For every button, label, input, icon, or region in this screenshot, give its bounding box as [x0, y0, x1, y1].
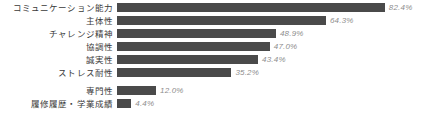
bar-row: 専門性12.0%	[0, 84, 422, 97]
bar	[117, 86, 156, 95]
category-label: ストレス耐性	[0, 68, 113, 78]
value-label: 47.0%	[274, 42, 298, 51]
value-label: 64.3%	[330, 16, 354, 25]
bar-row: 協調性47.0%	[0, 40, 422, 53]
category-label: 専門性	[0, 86, 113, 96]
bar-track: 12.0%	[117, 84, 422, 97]
bar-row: 主体性64.3%	[0, 14, 422, 27]
bar-track: 64.3%	[117, 14, 422, 27]
category-label: 協調性	[0, 42, 113, 52]
bar	[117, 99, 131, 108]
bar	[117, 3, 385, 12]
category-label: コミュニケーション能力	[0, 3, 113, 13]
bar-row: ストレス耐性35.2%	[0, 66, 422, 79]
value-label: 82.4%	[389, 3, 413, 12]
bar-row: 履修履歴・学業成績4.4%	[0, 97, 422, 110]
bar-row: チャレンジ精神48.9%	[0, 27, 422, 40]
bar-row: コミュニケーション能力82.4%	[0, 1, 422, 14]
bar-track: 82.4%	[117, 1, 422, 14]
bar-track: 48.9%	[117, 27, 422, 40]
value-label: 43.4%	[262, 55, 286, 64]
value-label: 48.9%	[280, 29, 304, 38]
bar	[117, 55, 258, 64]
bar-track: 4.4%	[117, 97, 422, 110]
bar-track: 35.2%	[117, 66, 422, 79]
category-label: 主体性	[0, 16, 113, 26]
category-label: 履修履歴・学業成績	[0, 99, 113, 109]
value-label: 35.2%	[235, 68, 259, 77]
bar	[117, 29, 276, 38]
bar-row: 誠実性43.4%	[0, 53, 422, 66]
bar-track: 43.4%	[117, 53, 422, 66]
category-label: 誠実性	[0, 55, 113, 65]
bar	[117, 68, 231, 77]
bar	[117, 42, 270, 51]
category-label: チャレンジ精神	[0, 29, 113, 39]
value-label: 4.4%	[135, 99, 154, 108]
value-label: 12.0%	[160, 86, 184, 95]
bar	[117, 16, 326, 25]
bar-chart: コミュニケーション能力82.4%主体性64.3%チャレンジ精神48.9%協調性4…	[0, 0, 422, 140]
bar-track: 47.0%	[117, 40, 422, 53]
